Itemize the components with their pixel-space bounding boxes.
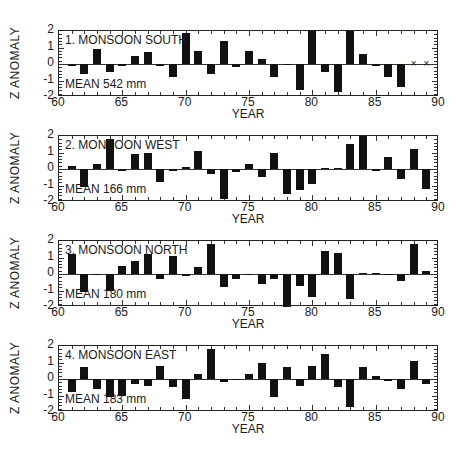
y-tick-mark [434,405,437,406]
y-tick-mark [59,396,64,397]
y-tick-mark [434,386,437,387]
y-tick-mark [59,386,62,387]
bar-70 [182,379,190,399]
bar-80 [308,366,316,379]
bar-83 [346,379,354,407]
y-tick-mark [432,363,437,364]
y-tick-mark [434,399,437,400]
x-tick-mark [262,346,263,349]
y-tick-mark [434,353,437,354]
y-tick-mark [59,363,64,364]
x-tick-mark [414,346,415,349]
bar-82 [334,379,342,387]
x-tick-mark [198,346,199,349]
x-tick-mark [338,407,339,410]
bar-77 [270,379,278,397]
y-tick-mark [434,369,437,370]
plot-area: 4. MONSOON EASTMEAN 183 mm [58,345,438,411]
x-tick-mark [376,346,377,351]
y-tick-mark [59,402,62,403]
bar-89 [422,379,430,384]
y-tick-label: 2 [40,337,54,351]
bar-81 [321,354,329,379]
x-tick-mark [274,346,275,349]
bar-74 [232,379,240,380]
x-tick-mark [262,407,263,410]
x-tick-mark [224,346,225,349]
x-tick-mark [274,407,275,410]
bar-75 [245,374,253,379]
x-tick-mark [338,346,339,349]
y-tick-mark [59,389,62,390]
x-tick-mark [160,407,161,410]
y-tick-mark [59,359,62,360]
x-tick-mark [236,346,237,349]
bar-76 [258,363,266,380]
y-tick-mark [434,356,437,357]
y-tick-mark [59,376,62,377]
x-tick-mark [97,407,98,410]
panel-4: Z ANOMALY210-1-24. MONSOON EASTMEAN 183 … [0,0,470,449]
x-axis-label: YEAR [58,422,438,436]
mean-annotation: MEAN 183 mm [65,392,146,406]
bar-67 [144,379,152,386]
x-tick-mark [186,346,187,351]
y-tick-mark [59,379,64,380]
x-tick-mark [388,407,389,410]
x-tick-mark [426,346,427,349]
bar-79 [296,379,304,386]
x-tick-mark [198,407,199,410]
y-tick-mark [59,369,62,370]
y-tick-mark [434,376,437,377]
bar-88 [410,361,418,379]
y-tick-mark [59,405,62,406]
x-tick-mark [300,346,301,349]
bar-62 [80,367,88,379]
y-tick-mark [59,366,62,367]
bar-86 [384,379,392,381]
y-tick-mark [59,356,62,357]
y-tick-mark [59,382,62,383]
y-tick-mark [434,389,437,390]
bar-84 [359,367,367,379]
y-tick-mark [59,372,62,373]
x-tick-mark [148,407,149,410]
bar-85 [372,376,380,379]
x-tick-mark [325,407,326,410]
y-tick-label: -1 [40,387,54,401]
y-tick-label: 1 [40,354,54,368]
x-tick-mark [224,407,225,410]
bar-66 [131,379,139,384]
x-tick-mark [414,407,415,410]
x-tick-mark [211,407,212,410]
bar-61 [68,379,76,392]
x-tick-mark [84,407,85,410]
bar-78 [283,367,291,379]
y-tick-mark [434,402,437,403]
x-tick-mark [401,346,402,349]
x-tick-mark [363,346,364,349]
y-axis-label: Z ANOMALY [8,341,22,415]
bar-72 [207,349,215,379]
y-tick-mark [59,349,62,350]
y-tick-mark [434,382,437,383]
x-tick-mark [325,346,326,349]
y-tick-mark [432,379,437,380]
bar-73 [220,379,228,382]
y-tick-mark [59,353,62,354]
zero-line [59,379,437,380]
x-tick-mark [350,346,351,349]
y-tick-mark [434,359,437,360]
bar-63 [93,379,101,389]
x-tick-mark [249,346,250,351]
bar-68 [156,366,164,379]
x-tick-mark [401,407,402,410]
x-tick-mark [388,346,389,349]
y-tick-mark [434,366,437,367]
y-tick-mark [434,392,437,393]
y-tick-mark [59,392,62,393]
y-tick-mark [434,349,437,350]
x-tick-mark [350,407,351,410]
y-tick-label: 0 [40,370,54,384]
x-tick-mark [287,346,288,349]
